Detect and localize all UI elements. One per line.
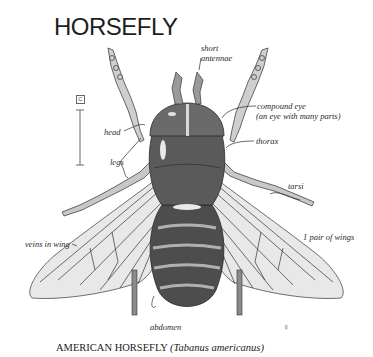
antennae [172, 72, 203, 104]
thorax [149, 135, 225, 210]
label-legs: legs [110, 157, 124, 167]
abdomen [150, 205, 224, 307]
head [150, 103, 224, 136]
label-pair-of-wings: 1 pair of wings [303, 232, 354, 242]
left-wing [30, 170, 170, 298]
caption-scientific-name: (Tabanus americanus) [170, 342, 264, 353]
scale-bar [76, 110, 84, 165]
label-abdomen: abdomen [150, 322, 181, 332]
label-thorax: thorax [256, 136, 278, 146]
female-symbol: ♀ [283, 322, 289, 332]
label-veins-in-wing: veins in wing [25, 239, 70, 249]
figure-caption: AMERICAN HORSEFLY (Tabanus americanus) [56, 342, 264, 353]
label-short-antennae: short antennae [201, 43, 232, 63]
caption-common-name: AMERICAN HORSEFLY [56, 342, 167, 353]
label-head: head [104, 127, 121, 137]
label-compound-eye-note: (an eye with many parts) [256, 111, 341, 121]
horsefly-illustration [0, 0, 373, 357]
label-tarsi: tarsi [288, 181, 304, 191]
label-compound-eye: compound eye [257, 101, 306, 111]
